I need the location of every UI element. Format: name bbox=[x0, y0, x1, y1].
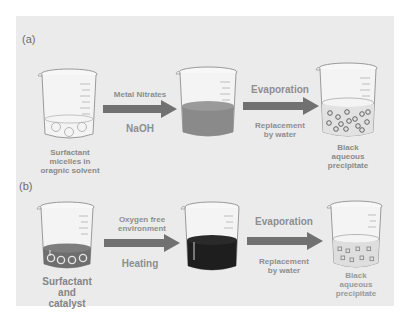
step-line: Replacement bbox=[242, 121, 318, 130]
caption-surfactant-micelles: Surfactant micelles in oragnic solvent bbox=[36, 148, 104, 175]
step-label-replacement-by-water: Replacement by water bbox=[242, 121, 318, 139]
step-line: Replacement bbox=[246, 257, 322, 266]
beaker-precipitate-icon bbox=[314, 58, 382, 142]
beaker-precipitate-icon bbox=[326, 197, 386, 273]
step-line: Oxygen free bbox=[104, 215, 180, 224]
step-label-evaporation-b: Evaporation bbox=[246, 216, 322, 227]
step-label-replacement-by-water-b: Replacement by water bbox=[246, 257, 322, 275]
caption-line: micelles in bbox=[36, 157, 104, 166]
beaker-black-solution-icon bbox=[180, 198, 244, 276]
caption-line: catalyst bbox=[28, 298, 106, 309]
row-label-a: (a) bbox=[22, 33, 35, 45]
row-label-b: (b) bbox=[19, 180, 32, 192]
arrow-right-icon bbox=[247, 232, 323, 250]
arrow-right-icon bbox=[243, 97, 319, 115]
caption-line: Black bbox=[322, 271, 390, 280]
caption-surfactant-catalyst: Surfactant and catalyst bbox=[28, 276, 106, 309]
caption-line: aqueous bbox=[314, 152, 382, 161]
step-line: environment bbox=[104, 224, 180, 233]
arrow-right-icon bbox=[104, 234, 180, 252]
caption-line: aqueous bbox=[322, 280, 390, 289]
beaker-gray-solution-icon bbox=[174, 62, 242, 142]
step-label-evaporation: Evaporation bbox=[242, 84, 318, 95]
caption-line: oragnic solvent bbox=[36, 166, 104, 175]
step-label-oxygen-free: Oxygen free environment bbox=[104, 215, 180, 233]
step-label-metal-nitrates: Metal Nitrates bbox=[104, 90, 176, 99]
step-label-naoh: NaOH bbox=[104, 123, 176, 134]
caption-line: and bbox=[28, 287, 106, 298]
step-line: by water bbox=[246, 266, 322, 275]
beaker-surfactant-catalyst-icon bbox=[36, 198, 98, 274]
beaker-surfactant-micelles-icon bbox=[36, 64, 102, 144]
caption-line: Surfactant bbox=[36, 148, 104, 157]
step-label-heating: Heating bbox=[104, 258, 176, 269]
caption-line: Surfactant bbox=[28, 276, 106, 287]
caption-black-precipitate-a: Black aqueous precipitate bbox=[314, 143, 382, 170]
arrow-right-icon bbox=[103, 100, 177, 118]
caption-line: Black bbox=[314, 143, 382, 152]
caption-black-precipitate-b: Black aqueous precipitate bbox=[322, 271, 390, 298]
caption-line: precipitate bbox=[314, 161, 382, 170]
step-line: by water bbox=[242, 130, 318, 139]
caption-line: precipitate bbox=[322, 289, 390, 298]
